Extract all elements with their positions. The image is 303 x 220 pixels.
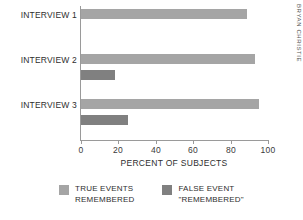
category-label-text: INTERVIEW 2	[3, 55, 77, 65]
bar-interview-2-false-events	[81, 70, 115, 80]
x-axis-line	[80, 140, 268, 141]
x-tick-100	[268, 140, 269, 144]
y-axis-line	[80, 6, 81, 140]
x-tick-20	[118, 140, 119, 144]
x-tick-label-40: 40	[151, 145, 161, 155]
legend-label-false-events: FALSE EVENT "REMEMBERED"	[178, 184, 243, 205]
artist-credit: BRYAN CHRISTIE	[296, 4, 302, 62]
legend-item-true-events: TRUE EVENTS REMEMBERED	[59, 184, 134, 205]
legend-item-false-events: FALSE EVENT "REMEMBERED"	[162, 184, 243, 205]
x-tick-0	[81, 140, 82, 144]
x-tick-label-80: 80	[226, 145, 236, 155]
bar-interview-2-true-events	[81, 54, 255, 64]
chart-figure: INTERVIEW 1 INTERVIEW 2 INTERVIEW 3 0 20…	[0, 0, 303, 220]
legend-label-true-events: TRUE EVENTS REMEMBERED	[75, 184, 134, 205]
category-label-text: INTERVIEW 3	[3, 100, 77, 110]
x-tick-40	[156, 140, 157, 144]
plot-area: INTERVIEW 1 INTERVIEW 2 INTERVIEW 3 0 20…	[0, 0, 303, 145]
x-tick-label-100: 100	[261, 145, 276, 155]
legend-swatch-true-events-icon	[59, 185, 69, 195]
bar-interview-3-false-events	[81, 115, 128, 125]
x-axis-title: PERCENT OF SUBJECTS	[80, 158, 268, 168]
bar-interview-1-true-events	[81, 9, 247, 19]
x-tick-label-20: 20	[113, 145, 123, 155]
x-tick-label-60: 60	[188, 145, 198, 155]
legend-label-line-2: "REMEMBERED"	[178, 195, 243, 206]
legend-label-line-2: REMEMBERED	[75, 195, 134, 206]
x-tick-80	[231, 140, 232, 144]
x-tick-label-0: 0	[79, 145, 84, 155]
x-tick-60	[193, 140, 194, 144]
legend-label-line-1: TRUE EVENTS	[75, 184, 134, 195]
category-label-text: INTERVIEW 1	[3, 10, 77, 20]
legend-label-line-1: FALSE EVENT	[178, 184, 243, 195]
bar-interview-3-true-events	[81, 99, 259, 109]
legend-swatch-false-events-icon	[162, 185, 172, 195]
chart-legend: TRUE EVENTS REMEMBERED FALSE EVENT "REME…	[0, 184, 303, 205]
